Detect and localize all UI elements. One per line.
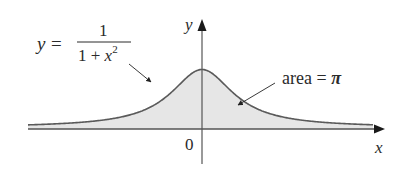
function-equals: = xyxy=(51,33,62,54)
area-label-arrow xyxy=(238,83,275,105)
function-numerator: 1 xyxy=(99,21,108,40)
area-label: area = π xyxy=(282,68,342,88)
y-axis-arrow-icon xyxy=(198,19,207,31)
diagram-canvas: y = 1 1 + x2 area = π y x 0 xyxy=(0,0,400,177)
figure: y = 1 1 + x2 area = π y x 0 xyxy=(0,0,400,177)
origin-label: 0 xyxy=(185,135,194,154)
x-axis-arrow-icon xyxy=(374,125,385,134)
function-label-arrow xyxy=(129,64,151,82)
y-axis-label: y xyxy=(183,15,193,34)
x-axis-label: x xyxy=(374,138,383,157)
function-lhs: y xyxy=(35,33,46,54)
function-denominator: 1 + x2 xyxy=(78,43,118,65)
